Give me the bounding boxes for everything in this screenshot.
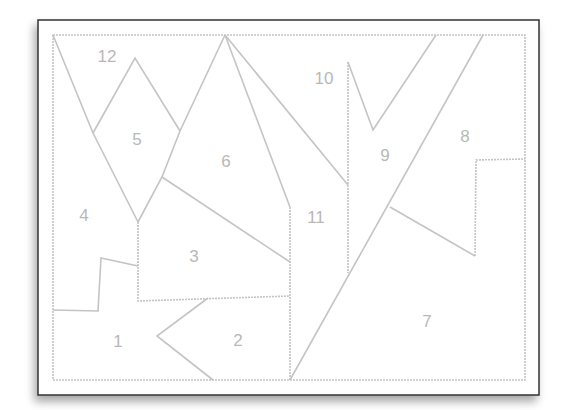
region-label-6: 6	[221, 152, 230, 171]
region-label-1: 1	[113, 332, 122, 351]
region-label-9: 9	[380, 146, 389, 165]
region-label-11: 11	[307, 208, 325, 227]
region-label-7: 7	[422, 312, 431, 331]
region-label-3: 3	[189, 247, 198, 266]
diagram-canvas: 1 2 3 4 5 6 7 8 9 10 11 12	[0, 0, 569, 410]
region-label-8: 8	[460, 127, 469, 146]
region-label-4: 4	[79, 206, 88, 225]
region-puzzle-diagram: 1 2 3 4 5 6 7 8 9 10 11 12	[0, 0, 569, 410]
region-label-5: 5	[132, 130, 141, 149]
region-label-2: 2	[233, 331, 242, 350]
region-label-12: 12	[98, 47, 117, 66]
region-label-10: 10	[315, 69, 334, 88]
